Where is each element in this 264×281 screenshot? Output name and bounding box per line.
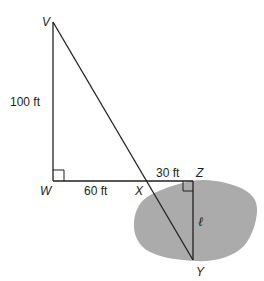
measurement-VW: 100 ft [10,95,41,109]
measurement-WX: 60 ft [84,184,108,198]
measurement-XZ: 30 ft [156,166,180,180]
segment-VY [53,22,193,260]
point-label-Z: Z [195,166,204,180]
point-label-X: X [134,184,144,198]
point-label-V: V [42,15,51,29]
right-angle-marker-W [53,170,64,181]
point-label-Y: Y [196,265,205,279]
measurement-ZY: ℓ [198,214,204,229]
point-label-W: W [40,184,53,198]
similar-triangles-diagram: V W X Z Y 100 ft 60 ft 30 ft ℓ [0,0,264,281]
